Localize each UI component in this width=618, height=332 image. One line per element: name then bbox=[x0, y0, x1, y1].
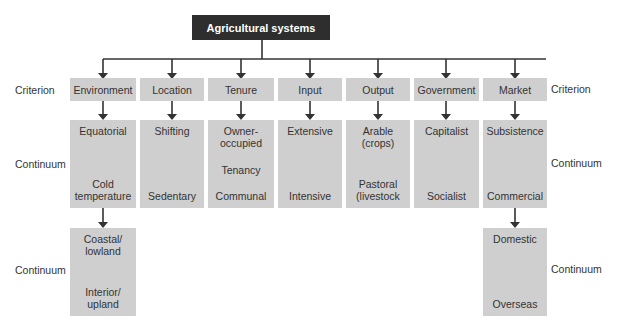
criterion-text: Location bbox=[152, 84, 192, 96]
continuum-top-1: Arable bbox=[346, 125, 410, 137]
continuum-top-2: (crops) bbox=[346, 137, 410, 149]
continuum2-top-2: lowland bbox=[70, 245, 136, 257]
criterion-government: Government bbox=[414, 78, 479, 101]
continuum-top: Extensive bbox=[278, 125, 342, 137]
title-text: Agricultural systems bbox=[207, 22, 316, 34]
continuum-top: Subsistence bbox=[483, 125, 547, 137]
continuum-bottom: Intensive bbox=[278, 190, 342, 202]
continuum-bottom-1: Cold bbox=[70, 178, 136, 190]
criterion-text: Tenure bbox=[225, 84, 257, 96]
continuum-bottom-2: temperature bbox=[70, 190, 136, 202]
continuum-top: Shifting bbox=[140, 125, 204, 137]
agricultural-systems-title: Agricultural systems bbox=[192, 15, 330, 40]
criterion-market: Market bbox=[483, 78, 547, 101]
criterion-text: Market bbox=[499, 84, 531, 96]
continuum-bottom: Socialist bbox=[414, 190, 479, 202]
continuum2-environment: Coastal/ lowland Interior/ upland bbox=[70, 228, 136, 316]
criterion-tenure: Tenure bbox=[208, 78, 274, 101]
continuum-label-left: Continuum bbox=[15, 158, 66, 170]
continuum-bottom-1: Pastoral bbox=[346, 178, 410, 190]
continuum-bottom: Communal bbox=[208, 190, 274, 202]
continuum2-market: Domestic Overseas bbox=[483, 228, 547, 316]
continuum-bottom-2: (livestock bbox=[346, 190, 410, 202]
criterion-text: Government bbox=[418, 84, 476, 96]
continuum-market: Subsistence Commercial bbox=[483, 120, 547, 208]
criterion-location: Location bbox=[140, 78, 204, 101]
continuum-top-1: Owner- bbox=[208, 125, 274, 137]
criterion-text: Output bbox=[362, 84, 394, 96]
criterion-text: Environment bbox=[74, 84, 133, 96]
criterion-environment: Environment bbox=[70, 78, 136, 101]
continuum-top: Equatorial bbox=[70, 125, 136, 137]
continuum-bottom: Sedentary bbox=[140, 190, 204, 202]
continuum-top-2: occupied bbox=[208, 137, 274, 149]
continuum2-bottom-1: Interior/ bbox=[70, 286, 136, 298]
criterion-label-right: Criterion bbox=[551, 83, 591, 95]
continuum-label-right: Continuum bbox=[551, 157, 602, 169]
continuum-top: Capitalist bbox=[414, 125, 479, 137]
criterion-input: Input bbox=[278, 78, 342, 101]
continuum-environment: Equatorial Cold temperature bbox=[70, 120, 136, 208]
continuum-middle: Tenancy bbox=[208, 164, 274, 176]
continuum2-label-left: Continuum bbox=[15, 264, 66, 276]
continuum-location: Shifting Sedentary bbox=[140, 120, 204, 208]
criterion-output: Output bbox=[346, 78, 410, 101]
continuum-tenure: Owner- occupied Tenancy Communal bbox=[208, 120, 274, 208]
continuum-output: Arable (crops) Pastoral (livestock bbox=[346, 120, 410, 208]
continuum2-top-1: Coastal/ bbox=[70, 233, 136, 245]
continuum-government: Capitalist Socialist bbox=[414, 120, 479, 208]
criterion-text: Input bbox=[298, 84, 321, 96]
criterion-label-left: Criterion bbox=[15, 84, 55, 96]
continuum2-top: Domestic bbox=[483, 233, 547, 245]
continuum-bottom: Commercial bbox=[483, 190, 547, 202]
continuum-input: Extensive Intensive bbox=[278, 120, 342, 208]
continuum2-label-right: Continuum bbox=[551, 263, 602, 275]
continuum2-bottom-2: upland bbox=[70, 298, 136, 310]
continuum2-bottom: Overseas bbox=[483, 298, 547, 310]
